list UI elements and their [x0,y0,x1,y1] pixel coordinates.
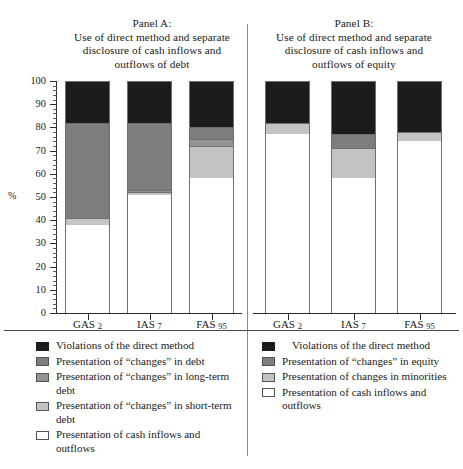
bar-segment [398,141,441,313]
bar-panel-a-fas-95[interactable] [189,81,234,313]
legend-swatch-icon [36,373,49,382]
panel-a-legend-item[interactable]: Presentation of “changes” in short-term … [36,399,241,426]
legend-swatch-icon [36,402,49,411]
x-tick-label: FAS 95 [380,318,460,330]
legend-label: Presentation of “changes” in short-term … [56,399,241,426]
panel-b-x-axis [253,313,456,314]
legend-swatch-icon [36,357,49,366]
x-label-number: 95 [426,321,435,331]
x-label-name: IAS [137,318,157,330]
y-axis-title: % [8,190,16,201]
y-tick-major [50,151,57,152]
x-label-name: GAS [73,318,98,330]
y-tick-major [50,243,57,244]
y-tick-major [50,290,57,291]
bar-segment [266,134,309,313]
bar-panel-b-fas-95[interactable] [397,81,442,313]
bar-segment [332,81,375,134]
y-tick-major [50,127,57,128]
bar-segment [128,195,171,313]
y-tick-label: 0 [18,308,46,318]
y-tick-label: 90 [18,99,46,109]
y-tick-major [50,104,57,105]
panel-b-title-line-1: Use of direct method and separate [254,31,454,45]
panel-a-legend-item[interactable]: Presentation of “changes” in long-term d… [36,370,241,397]
panel-b-title: Panel B: Use of direct method and separa… [254,17,454,71]
legend-swatch-icon [262,342,275,351]
bar-segment [66,225,109,313]
panel-a-plot-area [57,81,242,313]
bar-segment [128,192,171,194]
bar-segment [398,132,441,141]
legend-label: Violations of the direct method [56,339,241,352]
panel-b-title-line-2: disclosure of cash inflows and [254,44,454,58]
y-tick-label: 80 [18,122,46,132]
panel-a-legend-item[interactable]: Presentation of cash inflows and outflow… [36,428,241,455]
legend-label: Presentation of “changes” in equity [282,355,462,368]
bar-segment [190,146,233,178]
x-label-number: 2 [98,321,102,331]
legend-label: Presentation of “changes” in long-term d… [56,370,241,397]
x-label-number: 95 [218,321,227,331]
panel-b-legend-item[interactable]: Presentation of cash inflows and outflow… [262,386,462,413]
legend-label: Presentation of cash inflows and outflow… [282,386,462,413]
legend-label: Presentation of cash inflows and outflow… [56,428,241,455]
bar-segment [332,148,375,178]
panel-b-legend-item[interactable]: Presentation of “changes” in equity [262,355,462,368]
panel-b-legend: Violations of the direct methodPresentat… [262,339,462,415]
panel-b-plot-area [253,81,456,313]
x-label-number: 2 [298,321,302,331]
panel-a-legend: Violations of the direct methodPresentat… [36,339,241,457]
y-tick-label: 40 [18,215,46,225]
bar-segment [66,123,109,218]
bar-segment [190,178,233,313]
x-label-number: 7 [362,321,366,331]
y-tick-label: 50 [18,192,46,202]
bar-segment [266,81,309,123]
y-tick-major [50,313,57,314]
legend-swatch-icon [262,357,275,366]
panel-a-title-line-2: disclosure of cash inflows and [62,44,242,58]
bar-panel-b-gas-2[interactable] [265,81,310,313]
y-tick-label: 10 [18,285,46,295]
panel-b-legend-item[interactable]: Violations of the direct method [262,339,462,352]
panel-b-label: Panel B: [254,17,454,31]
y-tick-label: 100 [18,76,46,86]
legend-label: Presentation of “changes” in debt [56,355,241,368]
bar-segment [66,218,109,225]
panel-a-legend-item[interactable]: Presentation of “changes” in debt [36,355,241,368]
bar-panel-b-ias-7[interactable] [331,81,376,313]
bar-panel-a-ias-7[interactable] [127,81,172,313]
bar-panel-a-gas-2[interactable] [65,81,110,313]
bar-segment [128,123,171,190]
bar-segment [332,178,375,313]
y-tick-major [50,197,57,198]
y-tick-major [50,174,57,175]
legend-swatch-icon [36,431,49,440]
legend-swatch-icon [262,373,275,382]
y-tick-major [50,220,57,221]
x-label-name: IAS [341,318,361,330]
panel-divider [247,24,248,456]
x-label-name: GAS [273,318,298,330]
y-tick-label: 70 [18,146,46,156]
legend-label: Presentation of changes in minorities [282,370,462,383]
panel-b-legend-item[interactable]: Presentation of changes in minorities [262,370,462,383]
y-tick-label: 20 [18,262,46,272]
bar-segment [266,123,309,135]
legend-separator-rule [4,330,459,331]
y-tick-major [50,267,57,268]
y-axis: 0102030405060708090100 [50,81,57,313]
bar-segment [128,190,171,192]
panel-a-title: Panel A: Use of direct method and separa… [62,17,242,71]
bar-segment [332,134,375,148]
bar-segment [66,81,109,123]
x-tick-label: FAS 95 [172,318,252,330]
panel-b-title-line-3: outflows of equity [254,58,454,72]
panel-a-title-line-1: Use of direct method and separate [62,31,242,45]
bar-segment [190,127,233,139]
legend-label: Violations of the direct method [282,339,462,352]
bar-segment [190,139,233,146]
panel-a-legend-item[interactable]: Violations of the direct method [36,339,241,352]
bar-segment [398,81,441,132]
